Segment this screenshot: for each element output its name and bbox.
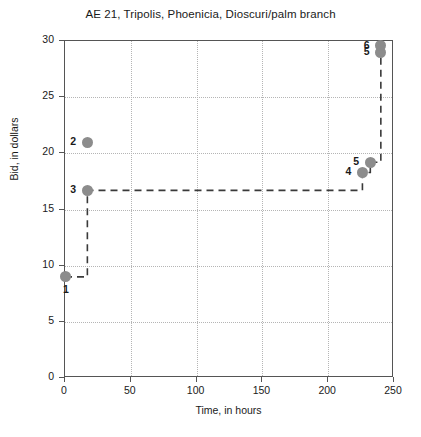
- ticklabel-y-10: 10: [28, 258, 54, 270]
- ticklabel-x-50: 50: [110, 384, 150, 396]
- tick-y-25: [59, 96, 64, 97]
- tick-x-250: [393, 377, 394, 382]
- tick-y-5: [59, 321, 64, 322]
- chart-title: AE 21, Tripolis, Phoenicia, Dioscuri/pal…: [0, 8, 421, 20]
- step-line-path: [65, 41, 394, 378]
- bid-history-chart: AE 21, Tripolis, Phoenicia, Dioscuri/pal…: [0, 0, 421, 437]
- plot-area: 1234556: [64, 40, 393, 377]
- tick-y-30: [59, 40, 64, 41]
- data-point-label: 6: [364, 39, 370, 51]
- data-point-label: 2: [70, 135, 76, 147]
- tick-x-150: [261, 377, 262, 382]
- ticklabel-y-15: 15: [28, 202, 54, 214]
- data-point-marker: [82, 137, 93, 148]
- ticklabel-y-25: 25: [28, 89, 54, 101]
- tick-x-200: [327, 377, 328, 382]
- x-axis-label: Time, in hours: [64, 404, 393, 416]
- ticklabel-x-100: 100: [176, 384, 216, 396]
- data-point-marker: [365, 157, 376, 168]
- step-polyline: [65, 45, 381, 276]
- tick-x-0: [64, 377, 65, 382]
- ticklabel-y-5: 5: [28, 314, 54, 326]
- data-point-label: 5: [353, 155, 359, 167]
- ticklabel-x-200: 200: [307, 384, 347, 396]
- y-axis-label: Bid, in dollars: [8, 69, 20, 229]
- tick-y-0: [59, 377, 64, 378]
- ticklabel-x-0: 0: [44, 384, 84, 396]
- data-point-marker: [60, 271, 71, 282]
- ticklabel-y-0: 0: [28, 370, 54, 382]
- ticklabel-y-30: 30: [28, 33, 54, 45]
- tick-x-100: [196, 377, 197, 382]
- data-point-label: 4: [345, 165, 351, 177]
- data-point-label: 1: [63, 283, 69, 295]
- tick-x-50: [130, 377, 131, 382]
- tick-y-10: [59, 265, 64, 266]
- data-point-marker: [357, 167, 368, 178]
- data-point-marker: [82, 185, 93, 196]
- tick-y-20: [59, 152, 64, 153]
- ticklabel-y-20: 20: [28, 145, 54, 157]
- ticklabel-x-150: 150: [241, 384, 281, 396]
- ticklabel-x-250: 250: [373, 384, 413, 396]
- tick-y-15: [59, 209, 64, 210]
- data-point-label: 3: [70, 183, 76, 195]
